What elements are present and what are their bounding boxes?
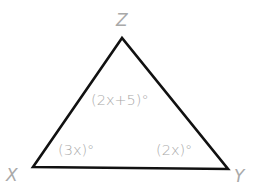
angle-label-x: (3x)° [58, 143, 94, 158]
angle-label-y: (2x)° [156, 143, 192, 158]
vertex-label-x: X [6, 167, 18, 184]
triangle-diagram: Z X Y (2x+5)° (3x)° (2x)° [0, 0, 254, 190]
angle-label-z: (2x+5)° [91, 93, 149, 108]
vertex-label-z: Z [116, 12, 128, 29]
vertex-label-y: Y [234, 168, 244, 185]
